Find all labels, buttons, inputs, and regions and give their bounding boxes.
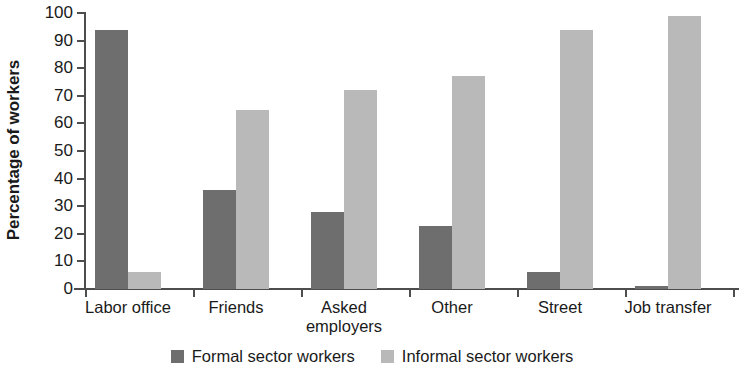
y-axis-tick-labels: 0102030405060708090100	[25, 0, 73, 300]
chart-legend: Formal sector workersInformal sector wor…	[0, 348, 744, 365]
bar	[311, 212, 344, 289]
y-axis-tick-label: 60	[29, 114, 73, 131]
legend-swatch-icon	[381, 350, 394, 363]
plot-area	[85, 13, 737, 289]
y-axis-tick-label: 70	[29, 87, 73, 104]
y-axis-tick-label: 50	[29, 142, 73, 159]
y-axis-title-text: Percentage of workers	[4, 60, 24, 240]
legend-label: Formal sector workers	[192, 348, 355, 365]
bar	[527, 272, 560, 289]
y-axis-tick-label: 40	[29, 170, 73, 187]
y-axis-title: Percentage of workers	[0, 0, 28, 300]
x-axis-category-label: Job transfer	[593, 298, 743, 317]
y-axis-tick-label: 80	[29, 59, 73, 76]
legend-item: Formal sector workers	[171, 348, 355, 365]
y-axis-tick-label: 0	[29, 280, 73, 297]
y-axis-tick-label: 30	[29, 197, 73, 214]
x-axis-tick-mark	[85, 290, 87, 297]
bar	[419, 226, 452, 289]
legend-swatch-icon	[171, 350, 184, 363]
legend-item: Informal sector workers	[381, 348, 573, 365]
legend-label: Informal sector workers	[402, 348, 573, 365]
bar	[95, 30, 128, 289]
y-axis-tick-label: 100	[29, 4, 73, 21]
x-axis-tick-mark	[733, 290, 735, 297]
x-axis-tick-mark	[193, 290, 195, 297]
x-axis-tick-mark	[625, 290, 627, 297]
bar	[128, 272, 161, 289]
x-axis-tick-mark	[409, 290, 411, 297]
y-axis-tick-label: 90	[29, 32, 73, 49]
x-axis-tick-mark	[301, 290, 303, 297]
y-axis-tick-label: 20	[29, 225, 73, 242]
bar	[236, 110, 269, 289]
x-axis-tick-mark	[517, 290, 519, 297]
bar	[560, 30, 593, 289]
bar	[344, 90, 377, 289]
bar-chart: Percentage of workers 010203040506070809…	[0, 0, 744, 377]
bar	[203, 190, 236, 289]
bar	[635, 286, 668, 289]
y-axis-tick-label: 10	[29, 252, 73, 269]
bar	[668, 16, 701, 289]
bar	[452, 76, 485, 289]
